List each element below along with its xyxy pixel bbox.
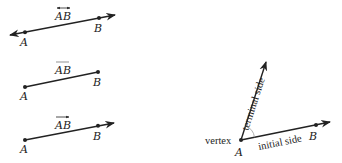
point-a-dot: [23, 30, 27, 34]
point-a-label: A: [19, 36, 28, 49]
point-a-label: A: [19, 143, 28, 156]
notation-label: AB: [54, 64, 71, 77]
figure-angle: vertex A B initial side terminal side: [205, 62, 330, 159]
geometry-diagram: AB A B AB A B AB A B vertex A B initial …: [0, 0, 342, 163]
terminal-side-label: terminal side: [239, 76, 266, 132]
point-a-dot: [23, 138, 27, 142]
vertex-dot: [239, 138, 243, 142]
point-b-dot: [314, 123, 318, 127]
vertex-label: vertex: [205, 135, 232, 146]
notation-label: AB: [54, 119, 71, 132]
point-b-dot: [96, 124, 100, 128]
point-b-label: B: [93, 22, 102, 35]
figure-line: AB A B: [10, 8, 115, 49]
vertex-point-label: A: [234, 146, 243, 159]
point-b-label: B: [308, 130, 317, 143]
point-a-label: A: [19, 90, 28, 103]
point-b-dot: [97, 16, 101, 20]
notation-label: AB: [54, 10, 71, 23]
point-a-dot: [23, 85, 27, 89]
figure-ray: AB A B: [19, 117, 114, 156]
point-b-label: B: [92, 130, 101, 143]
figure-segment: AB A B: [19, 62, 101, 103]
point-b-dot: [96, 70, 100, 74]
point-b-label: B: [92, 76, 101, 89]
